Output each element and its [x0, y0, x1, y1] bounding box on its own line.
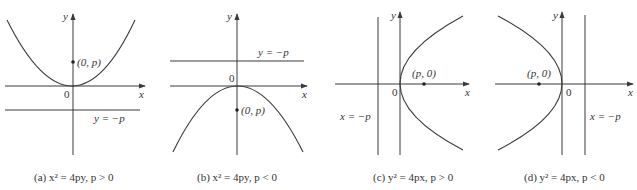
directrix-label: x = −p: [339, 110, 371, 122]
x-axis-label: x: [627, 86, 633, 98]
directrix-label: y = −p: [93, 112, 125, 124]
focus-label: (p, 0): [412, 67, 436, 80]
panel-c: y x 0 (p, 0) x = −p (c) y² = 4px, p > 0: [335, 9, 470, 184]
origin-label: 0: [64, 88, 70, 100]
focus-label: (p, 0): [527, 67, 551, 80]
parabola-curve: [498, 16, 562, 150]
parabola-curve: [7, 20, 135, 86]
caption: (b) x² = 4py, p < 0: [197, 171, 278, 184]
caption: (c) y² = 4px, p > 0: [373, 171, 454, 184]
focus-label: (0, p): [241, 104, 265, 117]
origin-label: 0: [566, 86, 572, 98]
focus-label: (0, p): [77, 56, 101, 69]
focus-point: [422, 82, 426, 86]
x-axis-label: x: [301, 88, 307, 100]
x-axis-label: x: [464, 86, 470, 98]
origin-label: 0: [392, 86, 398, 98]
y-axis-label: y: [552, 9, 558, 21]
focus-point: [537, 82, 541, 86]
caption: (d) y² = 4px, p < 0: [524, 171, 605, 184]
parabola-figure: y x 0 (0, p) y = −p (a) x² = 4py, p > 0 …: [0, 0, 637, 190]
x-axis-label: x: [138, 88, 144, 100]
parabola-curve: [400, 16, 463, 150]
focus-point: [71, 60, 75, 64]
y-axis-label: y: [62, 10, 68, 22]
parabola-curve: [173, 86, 303, 152]
panel-d: y x 0 (p, 0) x = −p (d) y² = 4px, p < 0: [495, 9, 633, 184]
origin-label: 0: [229, 72, 235, 84]
focus-point: [235, 108, 239, 112]
panel-b: y x 0 (0, p) y = −p (b) x² = 4py, p < 0: [170, 10, 307, 184]
y-axis-label: y: [226, 10, 232, 22]
caption: (a) x² = 4py, p > 0: [34, 171, 114, 184]
directrix-label: x = −p: [589, 110, 621, 122]
panel-a: y x 0 (0, p) y = −p (a) x² = 4py, p > 0: [5, 10, 145, 184]
y-axis-label: y: [390, 9, 396, 21]
directrix-label: y = −p: [257, 46, 289, 58]
